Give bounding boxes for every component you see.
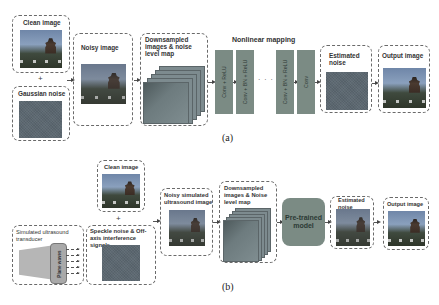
plane-waves-label: Plane waves [56,250,61,277]
noisy-us-thumbnail [169,210,205,246]
stack-layer [223,220,259,262]
nonlinear-mapping-title: Nonlinear mapping [232,36,295,43]
output-image-thumbnail-a [383,68,426,108]
downsampled-label-b: Downsampled images & Noise level map [224,185,276,207]
conv-bn-relu-layer-last: Conv + BN + ReLU [276,50,294,114]
estimated-noise-thumbnail-b [336,209,370,246]
downsampled-box-b: Downsampled images & Noise level map [219,181,277,263]
arrow-to-estimated-noise [315,82,319,83]
stack-layer [143,82,189,124]
caption-b: (b) [222,281,234,292]
gaussian-noise-box: Gaussian noise [12,86,70,141]
plus-sign-b: + [116,214,121,223]
transducer-label: Simulated ultrasound transducer [16,229,80,243]
plane-waves-block: Plane waves [50,243,67,284]
noisy-us-label: Noisy simulated ultrasound image [164,192,214,206]
clean-image-thumbnail-b [102,174,140,208]
conv-bn-relu-label: Conv + BN + ReLU [242,60,248,104]
conv-relu-layer: Conv + ReLU [215,50,233,114]
arrow-to-downsampled [134,80,139,81]
conv-bn-relu-layer: Conv + BN + ReLU [236,50,254,114]
estimated-noise-box-a: Estimated noise [320,45,372,113]
clean-image-label-b: Clean image [104,164,138,171]
gaussian-noise-label: Gaussian noise [18,90,65,97]
pretrained-model-block: Pre-trained model [282,198,325,246]
wave-arrow [66,273,79,274]
conv-label: Conv [303,76,309,88]
estimated-noise-box-b: Estimated noise [330,196,374,249]
noisy-image-box: Noisy image [73,33,133,126]
arrow-to-noisy-us [153,221,159,222]
conv-relu-label: Conv + ReLU [221,66,227,97]
wave-arrow [66,255,79,256]
conv-bn-relu-label: Conv + BN + ReLU [282,60,288,104]
downsampled-label-a: Downsampled images & noise level map [145,36,205,58]
output-image-box-b: Output image [383,197,429,250]
speckle-noise-thumbnail [102,245,140,281]
wave-arrow [66,249,79,250]
estimated-noise-thumbnail-a [326,72,368,110]
output-image-label-a: Output image [382,52,423,59]
clean-image-thumbnail [20,30,62,68]
caption-a: (a) [222,132,233,143]
plus-sign: + [38,74,43,83]
gaussian-noise-thumbnail [19,101,62,138]
noisy-image-thumbnail [81,64,126,104]
downsampled-box-a: Downsampled images & noise level map [140,33,208,126]
output-image-label-b: Output image [387,201,423,208]
arrow-to-nonlinear [208,82,214,83]
transducer-box: Simulated ultrasound transducer Plane wa… [12,225,84,285]
conv-layer: Conv [297,50,315,114]
arrow-to-output-b [374,222,379,223]
clean-image-box-b: Clean image [97,160,145,212]
wave-arrow [66,267,79,268]
output-image-box-a: Output image [378,45,430,113]
clean-image-box: Clean image [12,15,70,73]
wave-arrow [66,261,79,262]
noisy-image-label: Noisy image [81,44,119,51]
output-image-thumbnail-b [388,211,425,246]
clean-image-label: Clean image [23,19,61,26]
estimated-noise-label-a: Estimated noise [329,52,365,66]
arrow-to-output [372,83,377,84]
speckle-box: Speckle noise & Off-axis interference si… [86,225,156,285]
noisy-us-box: Noisy simulated ultrasound image [160,188,213,256]
